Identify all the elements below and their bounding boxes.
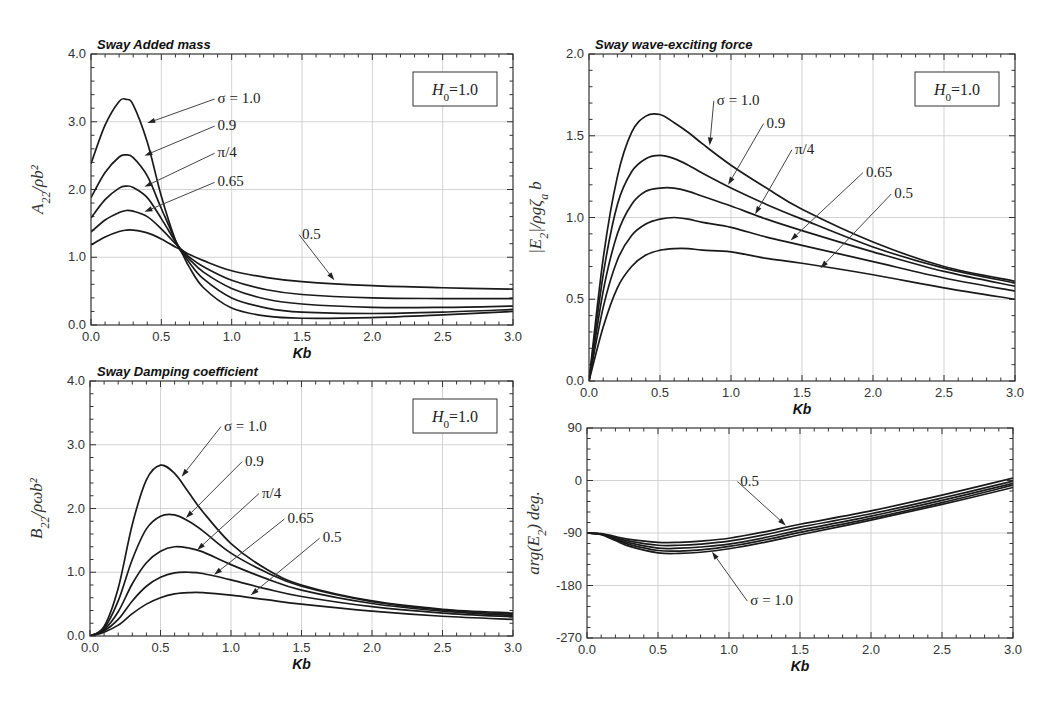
y-tick-label: 90 <box>568 420 582 435</box>
x-tick-label: 0.5 <box>152 329 170 344</box>
label-part: A <box>28 203 47 215</box>
annotation-arrow <box>717 558 748 601</box>
arrowhead-icon <box>144 206 152 211</box>
label-part: =1.0 <box>951 81 980 98</box>
y-axis-label: B22​/ρωb² <box>27 477 52 539</box>
curve-annotation-label: σ = 1.0 <box>750 592 793 608</box>
curve-annotation-label: π/4 <box>795 141 815 157</box>
y-tick-label: -90 <box>563 525 582 540</box>
arrowhead-icon <box>712 552 719 560</box>
label-part: =1.0 <box>449 408 478 425</box>
x-tick-label: 2.0 <box>363 329 381 344</box>
plot-wave-exciting-force: Sway wave-exciting force0.00.51.01.52.02… <box>526 37 1024 417</box>
label-part: =1.0 <box>449 81 478 98</box>
arrowhead-icon <box>755 206 761 214</box>
arrowhead-icon <box>147 118 155 123</box>
y-tick-label: 2.0 <box>68 182 86 197</box>
y-tick-label: 1.0 <box>68 249 86 264</box>
x-tick-label: 1.0 <box>720 642 738 657</box>
x-tick-label: 1.5 <box>293 329 311 344</box>
annotation-arrow <box>826 194 891 262</box>
label-part: /ρb² <box>28 164 47 192</box>
annotation-arrow <box>796 173 862 235</box>
plot-phase-angle: 0.00.51.01.52.02.53.0-270-180-90090Kbarg… <box>524 420 1022 674</box>
x-axis-label: Kb <box>791 658 810 674</box>
x-tick-label: 1.0 <box>223 329 241 344</box>
annotation-arrow <box>220 519 284 570</box>
y-tick-label: 1.0 <box>566 210 584 225</box>
y-tick-label: 1.5 <box>566 128 584 143</box>
x-tick-label: 3.0 <box>504 640 522 655</box>
y-tick-label: 1.0 <box>67 564 85 579</box>
curve-annotation-label: 0.65 <box>218 173 244 189</box>
curve-annotation-label: 0.65 <box>866 164 892 180</box>
x-tick-label: 0.5 <box>651 385 669 400</box>
annotation-arrow <box>192 462 243 513</box>
x-tick-label: 2.0 <box>862 642 880 657</box>
arrowhead-icon <box>214 568 222 575</box>
x-tick-label: 1.5 <box>793 385 811 400</box>
plot-added-mass: Sway Added mass0.00.51.01.52.02.53.00.01… <box>28 37 522 361</box>
plot-title: Sway wave-exciting force <box>595 37 753 52</box>
curve-annotation-label: 0.5 <box>302 226 321 242</box>
curve-annotation-label: 0.9 <box>245 453 264 469</box>
x-tick-label: 3.0 <box>1004 642 1022 657</box>
plot-damping-coefficient: Sway Damping coefficient0.00.51.01.52.02… <box>27 364 522 672</box>
arrowhead-icon <box>182 469 189 477</box>
label-part: ) deg. <box>524 491 543 531</box>
annotation-arrow <box>759 150 792 207</box>
x-tick-label: 2.5 <box>933 642 951 657</box>
annotation-arrow <box>187 427 221 471</box>
x-tick-label: 2.5 <box>433 640 451 655</box>
y-tick-label: 4.0 <box>67 373 85 388</box>
x-tick-label: 0.5 <box>649 642 667 657</box>
x-tick-label: 1.0 <box>722 385 740 400</box>
y-tick-label: 0.5 <box>566 291 584 306</box>
x-tick-label: 3.0 <box>504 329 522 344</box>
x-axis-label: Kb <box>293 345 312 361</box>
curve-annotation-label: 0.9 <box>218 117 237 133</box>
y-tick-label: -180 <box>556 578 582 593</box>
y-axis-label: arg(E2​) deg. <box>524 491 549 575</box>
x-axis-label: Kb <box>292 656 311 672</box>
curve-annotation-label: σ = 1.0 <box>218 90 261 106</box>
plot-title: Sway Damping coefficient <box>97 364 259 379</box>
arrowhead-icon <box>144 150 152 155</box>
curve-annotation-label: 0.5 <box>894 185 913 201</box>
x-tick-label: 1.0 <box>222 640 240 655</box>
x-tick-label: 2.0 <box>363 640 381 655</box>
label-subscript: 22 <box>38 517 52 529</box>
curve-annotation-label: σ = 1.0 <box>717 92 760 108</box>
y-tick-label: 2.0 <box>67 501 85 516</box>
y-tick-label: 0.0 <box>566 373 584 388</box>
annotation-arrow <box>155 99 215 120</box>
y-tick-label: 4.0 <box>68 46 86 61</box>
x-tick-label: 2.5 <box>935 385 953 400</box>
y-tick-label: -270 <box>556 630 582 645</box>
annotation-arrow <box>710 101 713 138</box>
curve-annotation-label: π/4 <box>218 144 238 160</box>
x-tick-label: 2.5 <box>434 329 452 344</box>
label-part: E <box>524 535 543 547</box>
label-part: arg( <box>524 545 543 575</box>
label-part: |/ρg <box>526 207 545 233</box>
figure-canvas: Sway Added mass0.00.51.01.52.02.53.00.01… <box>0 0 1061 714</box>
label-part: /ρωb² <box>27 477 46 517</box>
y-tick-label: 0 <box>575 473 582 488</box>
label-part: B <box>27 528 46 539</box>
label-part: b <box>526 181 545 194</box>
y-tick-label: 3.0 <box>67 437 85 452</box>
x-axis-label: Kb <box>793 401 812 417</box>
y-axis-label: |E2​|/ρgζa​ b <box>526 181 551 254</box>
y-tick-label: 2.0 <box>566 46 584 61</box>
x-tick-label: 3.0 <box>1006 385 1024 400</box>
label-part: E <box>526 238 545 250</box>
plot-title: Sway Added mass <box>97 37 211 52</box>
arrowhead-icon <box>708 137 713 145</box>
curve-annotation-label: π/4 <box>262 485 282 501</box>
y-tick-label: 0.0 <box>68 317 86 332</box>
curve-annotation-label: 0.5 <box>323 529 342 545</box>
x-tick-label: 1.5 <box>292 640 310 655</box>
y-tick-label: 0.0 <box>67 628 85 643</box>
arrowhead-icon <box>327 272 334 280</box>
